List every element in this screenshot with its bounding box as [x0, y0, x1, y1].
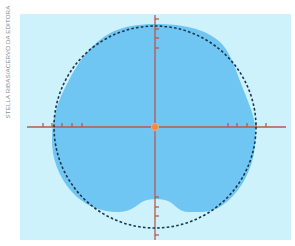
origin-dot [151, 123, 158, 130]
diagram [0, 0, 295, 246]
